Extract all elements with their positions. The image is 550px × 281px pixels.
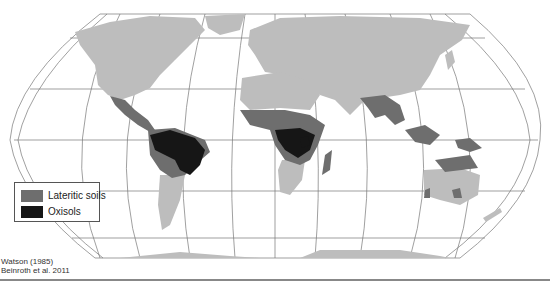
north-america [75, 16, 205, 100]
new-zealand [483, 208, 502, 222]
lateritic-soils-swatch [21, 190, 43, 202]
greenland [205, 14, 245, 35]
legend-label: Lateritic soils [48, 190, 106, 201]
legend-item-oxisols: Oxisols [21, 205, 81, 218]
map-legend: Lateritic soils Oxisols [14, 182, 100, 222]
world-map [0, 0, 550, 281]
australia [424, 168, 480, 205]
legend-label: Oxisols [48, 206, 81, 217]
credit-line-2: Beinroth et al. 2011 [1, 266, 70, 275]
japan [445, 50, 455, 70]
antarctica-east [300, 250, 450, 258]
southern-africa [278, 160, 305, 195]
source-credits: Watson (1985) Beinroth et al. 2011 [1, 257, 70, 275]
south-america-south [158, 175, 185, 230]
antarctica [120, 252, 260, 258]
legend-item-lateritic-soils: Lateritic soils [21, 189, 106, 202]
credit-line-1: Watson (1985) [1, 257, 70, 266]
oxisols-swatch [21, 206, 43, 218]
